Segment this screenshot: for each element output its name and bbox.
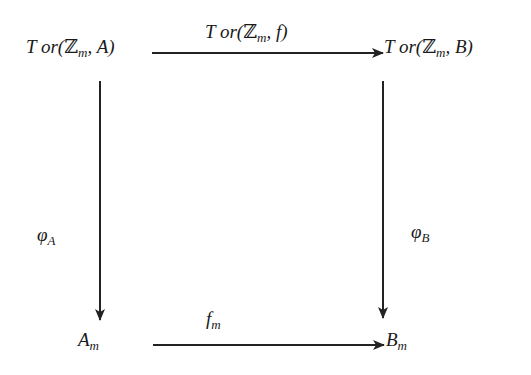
- subscript: m: [211, 317, 220, 332]
- tor-text: T or(: [26, 36, 64, 57]
- label-phi-b: φB: [411, 222, 429, 244]
- node-tor-za: T or(ℤm, A): [26, 37, 115, 59]
- node-b-m: Bm: [386, 330, 407, 352]
- args-text: , A): [87, 36, 114, 57]
- integers-symbol: ℤ: [64, 36, 78, 57]
- args-text: , B): [445, 36, 472, 57]
- tor-text: T or(: [384, 36, 422, 57]
- label-tor-zf: T or(ℤm, f): [205, 22, 288, 44]
- node-a-m: Am: [78, 330, 99, 352]
- integers-symbol: ℤ: [243, 21, 257, 42]
- b-symbol: B: [386, 329, 398, 350]
- phi-symbol: φ: [37, 224, 48, 245]
- a-symbol: A: [78, 329, 90, 350]
- subscript: A: [48, 233, 56, 248]
- phi-symbol: φ: [411, 221, 422, 242]
- subscript: m: [90, 338, 99, 353]
- node-tor-zb: T or(ℤm, B): [384, 37, 473, 59]
- label-f-m: fm: [206, 309, 221, 331]
- subscript: B: [422, 230, 430, 245]
- integers-symbol: ℤ: [422, 36, 436, 57]
- args-text: , f): [266, 21, 287, 42]
- subscript: m: [398, 338, 407, 353]
- tor-text: T or(: [205, 21, 243, 42]
- label-phi-a: φA: [37, 225, 55, 247]
